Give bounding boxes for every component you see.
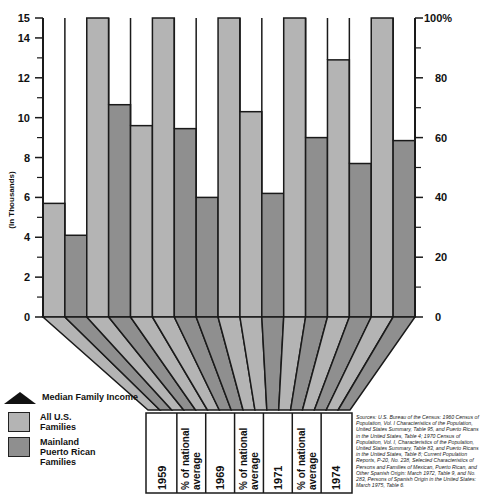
- left-tick-label: 0: [24, 311, 30, 323]
- legend-title-row: Median Family Income: [6, 392, 138, 404]
- pct-label: average: [249, 452, 260, 490]
- left-tick-label: 6: [24, 191, 30, 203]
- left-axis: 0246810121415 (In Thousands): [7, 12, 43, 323]
- pct-label: average: [307, 452, 318, 490]
- bar: [306, 138, 328, 317]
- bar: [349, 164, 371, 317]
- left-tick-label: 12: [18, 72, 30, 84]
- bar: [43, 203, 65, 317]
- all-us-swatch: [8, 412, 30, 432]
- pct-label: % of national: [180, 428, 191, 490]
- left-tick-label: 15: [18, 12, 30, 24]
- pct-label: average: [191, 452, 202, 490]
- bar: [196, 197, 218, 317]
- bar: [371, 18, 393, 317]
- legend-label-line: All U.S.: [40, 412, 76, 422]
- bar: [393, 141, 415, 317]
- left-tick-label: 10: [18, 112, 30, 124]
- bar: [65, 235, 87, 317]
- bar: [87, 18, 109, 317]
- bar: [240, 112, 262, 317]
- right-tick-label: 20: [435, 251, 447, 263]
- left-axis-title: (In Thousands): [7, 171, 16, 229]
- left-tick-label: 4: [24, 231, 31, 243]
- right-tick-label: 60: [435, 132, 447, 144]
- year-label: 1974: [330, 465, 342, 490]
- legend-title: Median Family Income: [42, 392, 138, 402]
- year-label: 1959: [156, 466, 168, 490]
- left-tick-label: 14: [18, 32, 31, 44]
- right-tick-label: 80: [435, 72, 447, 84]
- bar: [174, 129, 196, 317]
- puerto-rican-swatch: [8, 437, 30, 457]
- legend-label-line: Mainland: [40, 437, 96, 447]
- left-tick-label: 2: [24, 271, 30, 283]
- left-tick-label: 8: [24, 152, 30, 164]
- legend-label-line: Families: [40, 422, 76, 432]
- bar: [152, 18, 174, 317]
- legend-label-line: Families: [40, 457, 96, 467]
- year-label: 1971: [272, 466, 284, 490]
- legend-item-puerto-rican: Mainland Puerto Rican Families: [8, 437, 96, 467]
- bar: [131, 126, 153, 317]
- bottom-label-panel: 1959% of nationalaverage1969% of nationa…: [146, 413, 352, 493]
- right-tick-label: 0: [435, 311, 441, 323]
- bar: [262, 193, 284, 317]
- triangle-icon: [4, 392, 36, 404]
- bar: [284, 18, 306, 317]
- bar-columns: [43, 18, 415, 317]
- pct-label: % of national: [238, 428, 249, 490]
- legend-item-all-us: All U.S. Families: [8, 412, 76, 432]
- right-tick-label: 40: [435, 191, 447, 203]
- right-axis: 020406080100%: [415, 12, 452, 323]
- bar: [327, 60, 349, 317]
- legend-label-line: Puerto Rican: [40, 447, 96, 457]
- bar: [218, 18, 240, 317]
- year-label: 1969: [214, 466, 226, 490]
- sources-note: Sources: U.S. Bureau of the Census: 1960…: [356, 414, 484, 488]
- pct-label: % of national: [296, 428, 307, 490]
- bar: [109, 105, 131, 317]
- right-tick-label: 100%: [424, 12, 452, 24]
